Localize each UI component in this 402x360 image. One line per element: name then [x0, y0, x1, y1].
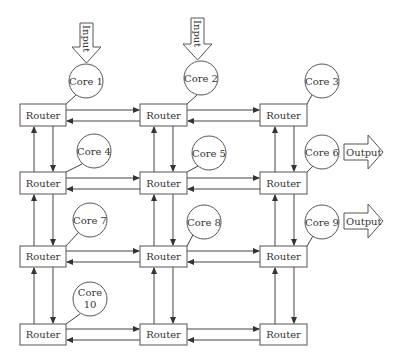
router-r11: Router	[20, 104, 66, 126]
svg-text:Router: Router	[26, 110, 61, 121]
svg-text:Router: Router	[266, 110, 301, 121]
core-2: Core 2	[184, 61, 218, 95]
svg-text:Router: Router	[146, 110, 181, 121]
svg-text:Core 4: Core 4	[77, 146, 111, 157]
core-7: Core 7	[73, 203, 107, 237]
svg-text:Core 5: Core 5	[192, 148, 226, 159]
svg-text:Core 8: Core 8	[187, 217, 221, 228]
svg-text:Router: Router	[266, 178, 301, 189]
router-r13: Router	[260, 104, 307, 126]
svg-text:Input: Input	[81, 25, 92, 52]
core-5: Core 5	[192, 136, 226, 170]
svg-text:Router: Router	[146, 329, 181, 340]
router-r33: Router	[260, 246, 307, 267]
svg-text:Core 7: Core 7	[73, 215, 107, 226]
core-6: Core 6	[305, 135, 339, 169]
core-9: Core 9	[305, 205, 339, 239]
input-arrow-core-1: Input	[72, 23, 101, 63]
svg-text:Core 2: Core 2	[184, 73, 218, 84]
noc-mesh-diagram: Router Router Router Router Router Route…	[0, 0, 402, 360]
svg-text:Core 3: Core 3	[305, 76, 339, 87]
router-r21: Router	[20, 172, 66, 194]
core-10: Core 10	[73, 282, 107, 316]
router-r41: Router	[20, 324, 66, 345]
router-r42: Router	[140, 324, 187, 345]
svg-text:Router: Router	[26, 251, 61, 262]
router-r43: Router	[260, 324, 307, 345]
output-arrow-core-6: Output	[344, 135, 383, 169]
svg-text:Router: Router	[146, 251, 181, 262]
svg-text:10: 10	[84, 299, 97, 310]
core-3: Core 3	[305, 64, 339, 98]
svg-text:Output: Output	[346, 147, 382, 158]
router-r31: Router	[20, 246, 66, 267]
links-col-2	[154, 126, 173, 324]
input-arrow-core-2: Input	[183, 18, 212, 60]
router-r22: Router	[140, 172, 187, 194]
router-r23: Router	[260, 172, 307, 194]
router-r32: Router	[140, 246, 187, 267]
output-arrow-core-9: Output	[344, 204, 383, 238]
svg-text:Router: Router	[26, 178, 61, 189]
svg-text:Router: Router	[26, 329, 61, 340]
svg-text:Core: Core	[78, 287, 102, 298]
router-r12: Router	[140, 104, 187, 126]
svg-text:Router: Router	[266, 251, 301, 262]
svg-text:Input: Input	[192, 20, 203, 47]
svg-text:Core 1: Core 1	[69, 76, 103, 87]
svg-text:Core 9: Core 9	[305, 217, 339, 228]
links-col-3	[275, 126, 294, 324]
core-1: Core 1	[69, 64, 103, 98]
svg-text:Core 6: Core 6	[305, 147, 339, 158]
core-8: Core 8	[187, 205, 221, 239]
links-col-1	[34, 126, 53, 324]
core-4: Core 4	[77, 134, 111, 168]
svg-text:Router: Router	[146, 178, 181, 189]
svg-text:Router: Router	[266, 329, 301, 340]
svg-text:Output: Output	[346, 216, 382, 227]
